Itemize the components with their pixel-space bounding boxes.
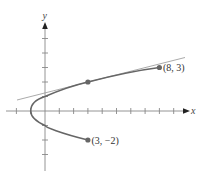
y-axis: y: [42, 10, 49, 171]
parabola-curve: [31, 68, 160, 141]
parametric-curve-plot: x y (8, 3) (3, −: [0, 0, 200, 174]
plot-canvas: x y (8, 3) (3, −: [0, 0, 200, 174]
y-axis-label: y: [42, 10, 48, 21]
tangency-point-marker: [85, 79, 90, 84]
x-axis-label: x: [190, 105, 196, 116]
end-point-marker: [157, 65, 162, 70]
x-axis-arrow-icon: [183, 108, 190, 114]
end-point-label: (8, 3): [163, 62, 185, 74]
x-axis: x: [6, 105, 196, 116]
y-axis-arrow-icon: [42, 22, 48, 29]
start-point-label: (3, −2): [92, 135, 119, 147]
start-point-marker: [85, 137, 90, 142]
